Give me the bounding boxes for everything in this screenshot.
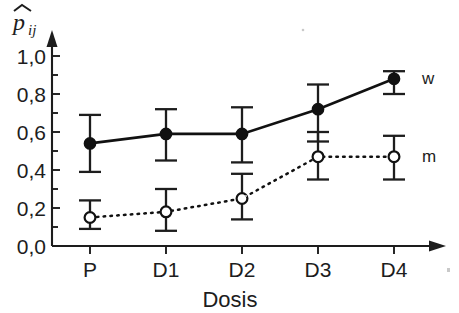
y-axis-arrow-icon bbox=[47, 30, 58, 47]
x-tick-label-D1: D1 bbox=[153, 258, 180, 281]
y-axis-label: p ij bbox=[11, 5, 36, 38]
y-axis-ticks: 0,0 0,2 0,4 0,6 0,8 1,0 bbox=[17, 45, 60, 258]
x-tick-label-P: P bbox=[83, 258, 97, 281]
x-axis-title: Dosis bbox=[202, 287, 257, 312]
scan-speck bbox=[245, 195, 247, 197]
data-point-w-D4 bbox=[388, 73, 399, 84]
data-point-m-P bbox=[85, 212, 96, 223]
x-tick-label-D2: D2 bbox=[229, 258, 256, 281]
y-tick-label-4: 0,8 bbox=[17, 83, 46, 106]
y-tick-label-2: 0,4 bbox=[17, 159, 47, 182]
data-point-m-D3 bbox=[313, 151, 324, 162]
scan-speck bbox=[447, 268, 450, 272]
data-point-w-D2 bbox=[236, 128, 247, 139]
data-point-m-D4 bbox=[389, 151, 400, 162]
x-tick-label-D3: D3 bbox=[305, 258, 332, 281]
data-point-w-P bbox=[84, 138, 95, 149]
y-tick-label-5: 1,0 bbox=[17, 45, 46, 68]
data-point-m-D1 bbox=[161, 206, 172, 217]
x-axis-arrow-icon bbox=[429, 241, 446, 252]
scan-speck bbox=[302, 29, 305, 32]
series-label-w: w bbox=[421, 69, 435, 88]
y-tick-label-3: 0,6 bbox=[17, 121, 46, 144]
x-axis-ticks: P D1 D2 D3 D4 bbox=[83, 246, 408, 281]
series-label-m: m bbox=[422, 147, 436, 166]
data-point-m-D2 bbox=[237, 193, 248, 204]
error-bar-line-chart: p ij 0,0 0,2 0,4 bbox=[0, 0, 459, 313]
y-axis-label-symbol: p bbox=[11, 9, 25, 35]
chart-figure: p ij 0,0 0,2 0,4 bbox=[0, 0, 459, 313]
x-tick-label-D4: D4 bbox=[381, 258, 408, 281]
data-point-w-D1 bbox=[160, 128, 171, 139]
y-tick-label-1: 0,2 bbox=[17, 197, 46, 220]
y-tick-label-0: 0,0 bbox=[17, 235, 46, 258]
data-point-w-D3 bbox=[312, 104, 323, 115]
y-axis-label-subscript: ij bbox=[28, 22, 36, 38]
